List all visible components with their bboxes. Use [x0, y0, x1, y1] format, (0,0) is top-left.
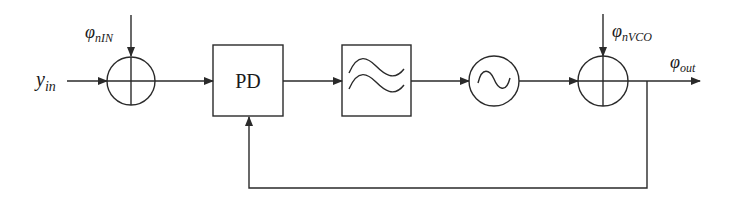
summer-output-icon: [578, 56, 628, 106]
oscillator-icon: [478, 71, 510, 88]
vco-block: [469, 56, 519, 106]
phase-detector-block: PD: [213, 45, 283, 116]
loop-filter-block: [342, 45, 411, 116]
input-label: yin: [34, 68, 56, 94]
feedback-path: [249, 81, 647, 188]
filter-icon: [349, 59, 404, 92]
pll-diagram: yin φnIN PD φnVCO: [0, 0, 737, 202]
pd-label: PD: [235, 70, 261, 92]
vco-noise-label: φnVCO: [612, 21, 652, 44]
input-noise-label: φnIN: [85, 22, 114, 45]
output-label: φout: [670, 52, 696, 75]
summer-input-icon: [107, 57, 155, 105]
